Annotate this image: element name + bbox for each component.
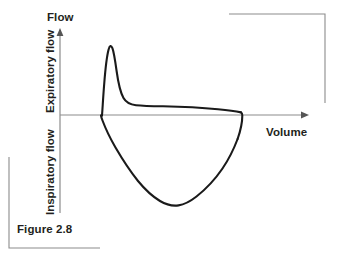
figure-container: Flow Volume Expiratory flow Inspiratory … [0,0,341,265]
x-axis-arrow-icon [301,112,309,119]
y-axis-title: Flow [47,12,74,24]
expiratory-limb-curve [102,46,241,115]
y-axis-arrow-icon [57,28,64,36]
y-axis [57,28,64,213]
inspiratory-flow-axis-label: Inspiratory flow [45,129,57,215]
x-axis-title: Volume [266,127,307,139]
x-axis [60,112,309,119]
expiratory-flow-axis-label: Expiratory flow [45,30,57,113]
loop-right-closure [238,112,243,139]
figure-number-caption: Figure 2.8 [17,224,72,236]
top-right-bracket-decoration [229,14,325,103]
inspiratory-limb-curve [101,116,238,206]
